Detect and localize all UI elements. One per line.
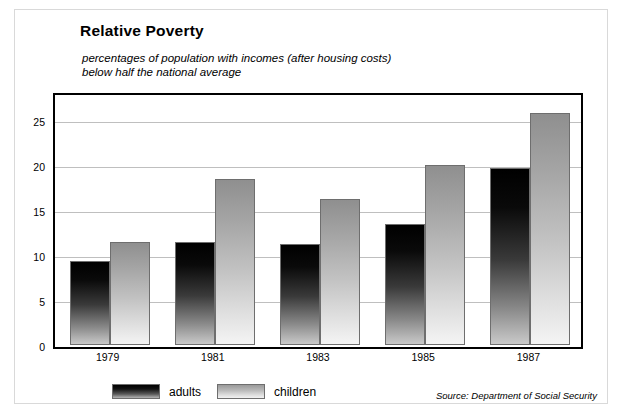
page-title: Relative Poverty xyxy=(80,22,204,40)
y-tick-label: 20 xyxy=(33,161,45,173)
legend-item-adults: adults xyxy=(112,384,201,399)
x-tick-label: 1985 xyxy=(412,351,435,363)
light-gradient-swatch xyxy=(217,384,265,399)
bars-layer xyxy=(57,97,579,345)
bar-group-1983 xyxy=(280,97,360,345)
y-tick-label: 0 xyxy=(39,341,45,353)
x-tick-label: 1983 xyxy=(306,351,329,363)
y-tick-label: 25 xyxy=(33,116,45,128)
bar-children-1979 xyxy=(110,242,150,346)
x-axis-ticks: 19791981198319851987 xyxy=(53,351,583,369)
x-tick-label: 1987 xyxy=(517,351,540,363)
bar-adults-1981 xyxy=(175,242,215,345)
bar-adults-1987 xyxy=(490,168,530,345)
y-tick-label: 15 xyxy=(33,206,45,218)
bar-children-1985 xyxy=(425,165,465,345)
chart-page: Relative Poverty percentages of populati… xyxy=(0,0,625,419)
plot-area xyxy=(53,93,583,349)
bar-group-1981 xyxy=(175,97,255,345)
legend-item-children: children xyxy=(217,384,316,399)
legend-label: adults xyxy=(169,385,201,399)
bar-group-1979 xyxy=(70,97,150,345)
x-tick-label: 1979 xyxy=(96,351,119,363)
dark-gradient-swatch xyxy=(112,384,160,399)
legend: adultschildren xyxy=(112,384,316,399)
bar-children-1987 xyxy=(530,113,570,345)
bar-adults-1979 xyxy=(70,261,110,345)
x-tick-label: 1981 xyxy=(201,351,224,363)
y-tick-label: 10 xyxy=(33,251,45,263)
legend-label: children xyxy=(274,385,316,399)
bar-children-1981 xyxy=(215,179,255,346)
bar-adults-1985 xyxy=(385,224,425,346)
bar-adults-1983 xyxy=(280,244,320,345)
bar-children-1983 xyxy=(320,199,360,345)
source-note: Source: Department of Social Security xyxy=(436,390,597,401)
y-axis-ticks: 0510152025 xyxy=(0,93,53,349)
chart-subtitle: percentages of population with incomes (… xyxy=(82,52,391,79)
bar-group-1985 xyxy=(385,97,465,345)
y-tick-label: 5 xyxy=(39,296,45,308)
bar-group-1987 xyxy=(490,97,570,345)
